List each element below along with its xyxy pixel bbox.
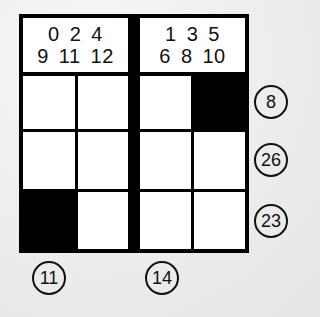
header-number: 11 bbox=[59, 45, 81, 67]
header-number: 1 bbox=[165, 23, 177, 45]
column-clue-1: 11 bbox=[32, 261, 66, 295]
cell-r1-c3[interactable] bbox=[140, 76, 191, 129]
header-number: 6 bbox=[159, 45, 171, 67]
cell-r2-c1[interactable] bbox=[23, 132, 75, 189]
cell-r3-c4[interactable] bbox=[194, 192, 245, 249]
header-left-line-1: 0 2 4 bbox=[48, 23, 103, 45]
cell-r1-c1[interactable] bbox=[23, 76, 75, 129]
header-number: 3 bbox=[187, 23, 199, 45]
header-left-line-2: 9 11 12 bbox=[37, 45, 114, 67]
header-right-block: 1 3 5 6 8 10 bbox=[140, 18, 245, 72]
cell-r1-c2[interactable] bbox=[78, 76, 128, 129]
header-number: 12 bbox=[91, 45, 114, 67]
cell-r1-c4-filled[interactable] bbox=[194, 76, 245, 129]
header-number: 5 bbox=[208, 23, 220, 45]
header-number: 10 bbox=[203, 45, 226, 67]
cell-r2-c3[interactable] bbox=[140, 132, 191, 189]
header-right-line-2: 6 8 10 bbox=[159, 45, 226, 67]
column-clue-3: 14 bbox=[145, 261, 179, 295]
header-right-line-1: 1 3 5 bbox=[165, 23, 220, 45]
header-number: 0 bbox=[48, 23, 60, 45]
puzzle-grid: 0 2 4 9 11 12 1 3 5 6 8 10 bbox=[19, 14, 249, 253]
cell-r3-c2[interactable] bbox=[78, 192, 128, 249]
cell-r2-c2[interactable] bbox=[78, 132, 128, 189]
header-number: 4 bbox=[91, 23, 103, 45]
row-clue-3: 23 bbox=[254, 204, 288, 238]
row-clue-2: 26 bbox=[254, 143, 288, 177]
header-number: 9 bbox=[37, 45, 49, 67]
header-left-block: 0 2 4 9 11 12 bbox=[23, 18, 128, 72]
row-clue-1: 8 bbox=[254, 85, 288, 119]
cell-r3-c1-filled[interactable] bbox=[23, 192, 75, 249]
header-number: 8 bbox=[181, 45, 193, 67]
cell-r2-c4[interactable] bbox=[194, 132, 245, 189]
header-number: 2 bbox=[70, 23, 82, 45]
cell-r3-c3[interactable] bbox=[140, 192, 191, 249]
